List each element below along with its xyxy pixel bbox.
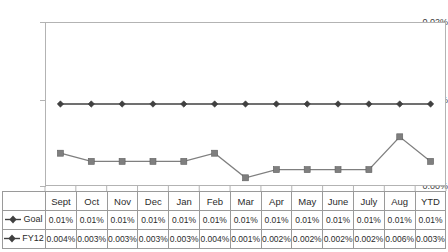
- table-cell: 0.002%: [261, 230, 292, 249]
- column-header: YTD: [415, 192, 446, 211]
- table-cell: 0.01%: [138, 211, 169, 230]
- y-axis-line: [45, 22, 46, 187]
- table-cell: 0.001%: [230, 230, 261, 249]
- table-cell: 0.002%: [323, 230, 354, 249]
- column-header: Apr: [261, 192, 292, 211]
- table-cell: 0.002%: [292, 230, 323, 249]
- table-cell: 0.01%: [230, 211, 261, 230]
- series-label: Goal: [23, 214, 42, 224]
- table-cell: 0.01%: [169, 211, 200, 230]
- table-cell: 0.003%: [107, 230, 138, 249]
- table-cell: 0.01%: [415, 211, 446, 230]
- table-cell: 0.003%: [415, 230, 446, 249]
- table-cell: 0.01%: [76, 211, 107, 230]
- table-row: FY12 0.004% 0.003% 0.003% 0.003% 0.003% …: [3, 230, 446, 249]
- table-cell: 0.004%: [199, 230, 230, 249]
- table-cell: 0.01%: [353, 211, 384, 230]
- table-cell: 0.01%: [199, 211, 230, 230]
- legend-entry-goal: Goal: [3, 211, 46, 230]
- table-cell: 0.006%: [384, 230, 415, 249]
- column-header: Aug: [384, 192, 415, 211]
- table-cell: 0.003%: [138, 230, 169, 249]
- table-cell: 0.003%: [76, 230, 107, 249]
- table-cell: 0.002%: [353, 230, 384, 249]
- column-header: Mar: [230, 192, 261, 211]
- column-header: Dec: [138, 192, 169, 211]
- table-corner-cell: [3, 192, 46, 211]
- column-header: Oct: [76, 192, 107, 211]
- column-header: July: [353, 192, 384, 211]
- table-cell: 0.01%: [323, 211, 354, 230]
- column-header: Feb: [199, 192, 230, 211]
- table-cell: 0.01%: [384, 211, 415, 230]
- table-cell: 0.01%: [107, 211, 138, 230]
- diamond-marker-icon: [5, 215, 21, 226]
- diamond-marker-icon: [4, 234, 20, 245]
- series-label: FY12: [22, 233, 44, 243]
- table-cell: 0.003%: [169, 230, 200, 249]
- table-cell: 0.01%: [46, 211, 77, 230]
- table-cell: 0.01%: [292, 211, 323, 230]
- chart-container: 0.02% 0.01% 0.00% Sept Oct Nov Dec Jan F…: [0, 0, 448, 252]
- table-row: Goal 0.01% 0.01% 0.01% 0.01% 0.01% 0.01%…: [3, 211, 446, 230]
- data-table: Sept Oct Nov Dec Jan Feb Mar Apr May Jun…: [2, 191, 446, 249]
- column-header: June: [323, 192, 354, 211]
- column-header: May: [292, 192, 323, 211]
- table-header-row: Sept Oct Nov Dec Jan Feb Mar Apr May Jun…: [3, 192, 446, 211]
- legend-entry-fy12: FY12: [3, 230, 46, 249]
- column-header: Nov: [107, 192, 138, 211]
- column-header: Sept: [46, 192, 77, 211]
- table-cell: 0.01%: [261, 211, 292, 230]
- plot-area: [45, 22, 446, 186]
- table-cell: 0.004%: [46, 230, 77, 249]
- column-header: Jan: [169, 192, 200, 211]
